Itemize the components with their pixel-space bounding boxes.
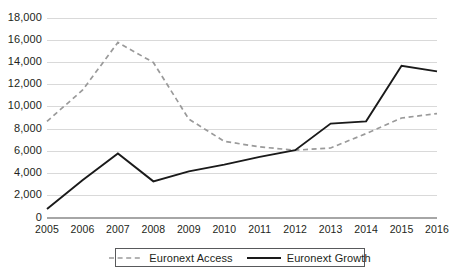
gridlines: [47, 18, 437, 196]
series-layer: [47, 42, 437, 209]
dashed-line-swatch-icon: [109, 253, 143, 263]
chart-legend: Euronext Access Euronext Growth: [115, 248, 365, 267]
series-line-euronext-growth: [47, 66, 437, 209]
y-axis-tick-label: 6,000: [0, 144, 42, 156]
x-axis-tick-label: 2008: [133, 223, 173, 235]
legend-label: Euronext Access: [149, 252, 232, 264]
y-axis-tick-label: 4,000: [0, 166, 42, 178]
y-axis-tick-label: 18,000: [0, 11, 42, 23]
series-line-euronext-access: [47, 42, 437, 150]
legend-item-euronext-growth: Euronext Growth: [247, 252, 371, 264]
y-axis-tick-label: 12,000: [0, 77, 42, 89]
x-axis-tick-label: 2014: [346, 223, 386, 235]
y-axis-tick-label: 10,000: [0, 99, 42, 111]
x-axis-tick-label: 2006: [62, 223, 102, 235]
x-axis-tick-label: 2009: [169, 223, 209, 235]
x-axis-tick-label: 2005: [27, 223, 67, 235]
line-chart: 18,00016,00014,00012,00010,0008,0006,000…: [0, 0, 449, 272]
legend-label: Euronext Growth: [287, 252, 371, 264]
x-axis-tick-label: 2007: [98, 223, 138, 235]
x-axis-tick-label: 2015: [382, 223, 422, 235]
x-axis-tick-label: 2011: [240, 223, 280, 235]
y-axis-tick-label: 8,000: [0, 122, 42, 134]
x-axis-tick-label: 2010: [204, 223, 244, 235]
x-axis-tick-label: 2016: [417, 223, 449, 235]
legend-item-euronext-access: Euronext Access: [109, 252, 232, 264]
y-axis-tick-label: 2,000: [0, 188, 42, 200]
y-axis-tick-label: 16,000: [0, 33, 42, 45]
solid-line-swatch-icon: [247, 253, 281, 263]
x-axis-tick-label: 2012: [275, 223, 315, 235]
x-axis-tick-label: 2013: [311, 223, 351, 235]
y-axis-tick-label: 0: [0, 211, 42, 223]
y-axis-tick-label: 14,000: [0, 55, 42, 67]
